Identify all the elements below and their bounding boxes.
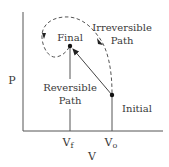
tick-label-vf: Vf [62,136,75,150]
reversible-label-line2: Path [59,95,82,106]
final-point [68,44,72,48]
y-axis-label: P [8,74,16,87]
final-label: Final [57,32,83,43]
initial-label: Initial [122,103,152,114]
reversible-label-line1: Reversible [43,82,97,93]
irreversible-arrow-left-icon [42,33,46,39]
irreversible-label-line2: Path [111,35,134,46]
initial-point [110,93,114,97]
tick-label-vo: Vo [104,136,118,150]
x-axis-label: V [87,150,97,163]
irreversible-label-line1: Irreversible [92,22,152,33]
pv-diagram: Final Initial Irreversible Path Reversib… [0,0,169,167]
